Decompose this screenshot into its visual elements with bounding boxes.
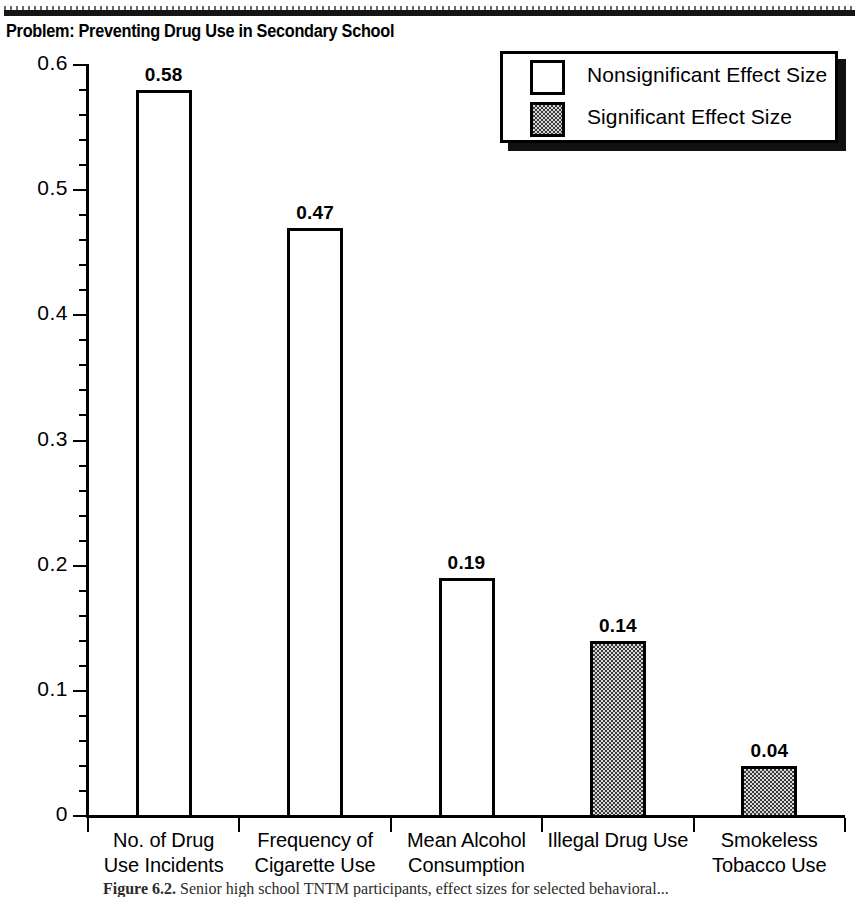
y-axis-major-tick — [73, 189, 87, 191]
x-axis-category-label: Frequency ofCigarette Use — [239, 828, 390, 878]
y-axis-major-tick — [73, 565, 87, 567]
y-axis-minor-tick — [79, 164, 87, 166]
legend-swatch-hatched-square — [530, 102, 565, 137]
x-axis-category-tick — [87, 818, 89, 832]
y-axis-tick-label: 0.2 — [0, 552, 68, 576]
figure-caption-text: Senior high school TNTM participants, ef… — [180, 880, 669, 897]
y-axis-minor-tick — [79, 339, 87, 341]
x-axis-category-label-line: Use Incidents — [88, 853, 239, 878]
y-axis-minor-tick — [79, 214, 87, 216]
y-axis-major-tick — [73, 690, 87, 692]
figure-page: Problem: Preventing Drug Use in Secondar… — [0, 0, 857, 897]
y-axis-minor-tick — [79, 114, 87, 116]
y-axis-tick-label: 0.4 — [0, 301, 68, 325]
bar-significant — [590, 641, 646, 818]
bar-value-label: 0.19 — [422, 552, 512, 574]
y-axis-minor-tick — [79, 465, 87, 467]
y-axis-minor-tick — [79, 715, 87, 717]
figure-caption: Figure 6.2. Senior high school TNTM part… — [103, 879, 803, 897]
x-axis-category-label-line: Frequency of — [239, 828, 390, 853]
bar-nonsignificant — [439, 578, 495, 818]
bar-significant — [741, 766, 797, 818]
y-axis-minor-tick — [79, 239, 87, 241]
figure-caption-label: Figure 6.2. — [103, 880, 176, 897]
y-axis-minor-tick — [79, 790, 87, 792]
legend-item-significant: Significant Effect Size — [503, 96, 835, 142]
y-axis-minor-tick — [79, 289, 87, 291]
y-axis-tick-label: 0.3 — [0, 427, 68, 451]
bar-value-label: 0.58 — [119, 64, 209, 86]
y-axis-minor-tick — [79, 740, 87, 742]
y-axis-tick-label: 0.5 — [0, 176, 68, 200]
y-axis-minor-tick — [79, 515, 87, 517]
x-axis-category-label-line: Consumption — [391, 853, 542, 878]
legend-label-nonsignificant: Nonsignificant Effect Size — [587, 63, 827, 87]
x-axis-category-label-line: No. of Drug — [88, 828, 239, 853]
y-axis-major-tick — [73, 440, 87, 442]
y-axis-tick-label: 0.1 — [0, 677, 68, 701]
y-axis-minor-tick — [79, 590, 87, 592]
bar-value-label: 0.47 — [270, 202, 360, 224]
y-axis-minor-tick — [79, 490, 87, 492]
x-axis-category-label: Illegal Drug Use — [542, 828, 693, 853]
y-axis-minor-tick — [79, 615, 87, 617]
x-axis-category-label-line: Mean Alcohol — [391, 828, 542, 853]
y-axis-major-tick — [73, 815, 87, 817]
y-axis-minor-tick — [79, 364, 87, 366]
y-axis-minor-tick — [79, 389, 87, 391]
legend-swatch-open-square — [530, 60, 565, 95]
y-axis-minor-tick — [79, 665, 87, 667]
x-axis-category-label-line: Cigarette Use — [239, 853, 390, 878]
x-axis-category-label: No. of DrugUse Incidents — [88, 828, 239, 878]
x-axis-category-label-line: Illegal Drug Use — [542, 828, 693, 853]
x-axis-category-label: Mean AlcoholConsumption — [391, 828, 542, 878]
y-axis-minor-tick — [79, 264, 87, 266]
y-axis-minor-tick — [79, 89, 87, 91]
chart-legend: Nonsignificant Effect Size Significant E… — [500, 51, 838, 143]
x-axis-category-label-line: Smokeless — [694, 828, 845, 853]
x-axis-category-tick — [390, 818, 392, 832]
legend-item-nonsignificant: Nonsignificant Effect Size — [503, 54, 835, 100]
x-axis-category-tick — [238, 818, 240, 832]
bar-nonsignificant — [136, 90, 192, 818]
bar-nonsignificant — [287, 228, 343, 818]
y-axis-tick-label: 0 — [0, 802, 68, 826]
x-axis-category-tick — [844, 818, 846, 832]
y-axis-minor-tick — [79, 765, 87, 767]
y-axis-minor-tick — [79, 414, 87, 416]
bar-value-label: 0.04 — [724, 740, 814, 762]
x-axis-category-tick — [693, 818, 695, 832]
y-axis-major-tick — [73, 64, 87, 66]
y-axis-major-tick — [73, 314, 87, 316]
y-axis-minor-tick — [79, 139, 87, 141]
bar-value-label: 0.14 — [573, 615, 663, 637]
y-axis-tick-label: 0.6 — [0, 51, 68, 75]
x-axis-category-label-line: Tobacco Use — [694, 853, 845, 878]
y-axis-minor-tick — [79, 540, 87, 542]
x-axis-category-tick — [541, 818, 543, 832]
legend-label-significant: Significant Effect Size — [587, 105, 792, 129]
x-axis-category-label: SmokelessTobacco Use — [694, 828, 845, 878]
y-axis-minor-tick — [79, 640, 87, 642]
